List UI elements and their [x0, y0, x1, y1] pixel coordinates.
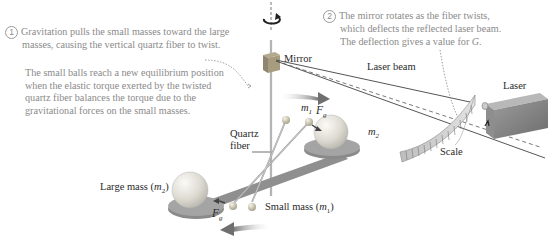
mirror-label: Mirror [284, 53, 312, 64]
step-2-note: 2The mirror rotates as the fiber twists,… [323, 10, 501, 48]
rotation-arrow-icon [264, 2, 281, 30]
step-1-note: 1Gravitation pulls the small masses towa… [5, 26, 229, 52]
small-mass [282, 116, 290, 124]
large-mass-right [314, 115, 348, 149]
step-number-2: 2 [323, 10, 336, 23]
laser-beam-label: Laser beam [367, 61, 416, 72]
mirror [263, 52, 280, 73]
small-mass [229, 202, 237, 210]
cavendish-diagram: 1Gravitation pulls the small masses towa… [0, 0, 560, 243]
equilibrium-note: The small balls reach a new equilibrium … [25, 67, 224, 117]
scale-label: Scale [440, 146, 463, 157]
laser-label: Laser [503, 80, 526, 91]
small-mass-label: Small mass (m1) [265, 201, 334, 215]
fg-label-upper: Fg [316, 104, 327, 119]
small-mass [305, 118, 313, 126]
m2-label: m2 [368, 126, 379, 140]
small-mass [248, 203, 256, 211]
force-arrow-icon [220, 222, 272, 236]
quartz-fiber-label: Quartz fiber [230, 128, 259, 152]
step-number-1: 1 [5, 26, 18, 39]
laser [482, 93, 548, 139]
large-mass-left [172, 172, 208, 208]
fg-label-lower: Fg [212, 207, 223, 222]
m1-label: m1 [301, 102, 312, 116]
large-mass-label: Large mass (m2) [100, 181, 169, 195]
